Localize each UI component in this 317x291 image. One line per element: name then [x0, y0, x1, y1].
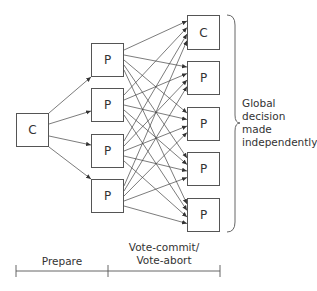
participant-node-right: P	[187, 152, 220, 186]
participant-node: P	[91, 43, 124, 77]
participant-node: P	[91, 88, 124, 122]
node-label: P	[200, 117, 207, 131]
phase-vote-line2: Vote-abort	[108, 254, 220, 267]
coordinator-node-right: C	[187, 15, 220, 50]
phase-vote-line1: Vote-commit/	[108, 241, 220, 254]
participant-node: P	[91, 179, 124, 213]
curly-brace	[227, 15, 240, 232]
decentralized-commit-diagram: C P P P P C P P P P Global decision made…	[0, 0, 317, 291]
participant-node-right: P	[187, 198, 220, 232]
node-label: P	[104, 98, 111, 112]
node-label: P	[104, 144, 111, 158]
node-label: C	[28, 123, 36, 137]
node-label: P	[200, 71, 207, 85]
annotation-line: made	[242, 123, 317, 136]
annotation-line: decision	[242, 110, 317, 123]
node-label: P	[200, 208, 207, 222]
node-label: C	[199, 26, 207, 40]
annotation-line: Global	[242, 97, 317, 110]
participant-node-right: P	[187, 61, 220, 95]
phase-vote-label: Vote-commit/ Vote-abort	[108, 241, 220, 267]
coordinator-node: C	[16, 113, 49, 147]
participant-node: P	[91, 134, 124, 168]
node-label: P	[104, 53, 111, 67]
brace-annotation: Global decision made independently	[242, 97, 317, 149]
node-label: P	[200, 162, 207, 176]
node-label: P	[104, 189, 111, 203]
participant-node-right: P	[187, 107, 220, 141]
phase-prepare-label: Prepare	[16, 255, 108, 268]
annotation-line: independently	[242, 136, 317, 149]
